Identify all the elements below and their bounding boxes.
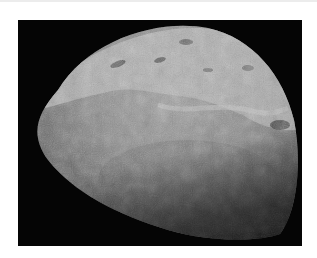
photo-frame bbox=[18, 20, 302, 246]
moon-image bbox=[18, 20, 302, 246]
top-divider bbox=[0, 0, 317, 2]
